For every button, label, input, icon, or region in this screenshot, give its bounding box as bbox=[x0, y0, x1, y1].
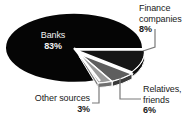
slice-label-relatives-friends: Relatives, friends 6% bbox=[143, 84, 182, 116]
slice-label-relatives-line1: Relatives, bbox=[143, 84, 182, 95]
slice-label-finance-line2: companies bbox=[139, 14, 182, 25]
slice-label-relatives-line2: friends bbox=[143, 95, 182, 106]
slice-label-banks-percent: 83% bbox=[30, 41, 76, 52]
slice-label-other-line1: Other sources bbox=[18, 93, 90, 104]
pie-chart-figure: Banks 83% Finance companies 8% Relatives… bbox=[0, 0, 194, 124]
slice-label-finance-companies: Finance companies 8% bbox=[139, 3, 182, 35]
slice-label-banks: Banks 83% bbox=[30, 30, 76, 51]
slice-label-finance-percent: 8% bbox=[139, 24, 182, 35]
slice-label-banks-name: Banks bbox=[30, 30, 76, 41]
slice-label-other-percent: 3% bbox=[18, 104, 90, 115]
slice-label-other-sources: Other sources 3% bbox=[18, 93, 90, 114]
slice-label-relatives-percent: 6% bbox=[143, 105, 182, 116]
slice-label-finance-line1: Finance bbox=[139, 3, 182, 14]
